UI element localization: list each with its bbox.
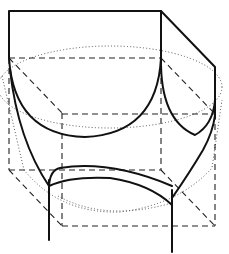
left-side-curve — [10, 70, 49, 186]
isometric-solid-drawing — [0, 0, 229, 254]
hidden-edges — [9, 58, 215, 226]
front-semicircle — [9, 58, 161, 137]
right-curve — [161, 58, 215, 135]
hidden-edge-diag-lower-left — [9, 170, 62, 226]
construction-lines — [0, 46, 222, 212]
hidden-edge-diag-left — [9, 58, 62, 113]
hidden-edge-diag-lower-right — [161, 170, 215, 226]
right-lower-curve — [172, 115, 215, 198]
arch-bottom — [49, 178, 172, 205]
arch-top — [49, 166, 172, 186]
right-slant-face — [161, 11, 215, 118]
front-top-face — [9, 11, 161, 58]
lower-ellipse-arc — [58, 196, 172, 211]
diagram-canvas — [0, 0, 229, 254]
hidden-edge-diag-right — [161, 58, 215, 114]
visible-edges — [9, 11, 215, 252]
side-ellipse-arc — [2, 76, 222, 212]
